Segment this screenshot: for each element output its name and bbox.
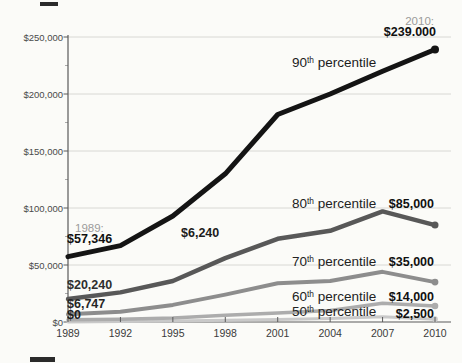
chart-page: $0$50,000$100,000$150,000$200,000$250,00… bbox=[0, 0, 462, 363]
end-dot-90th-percentile bbox=[431, 46, 439, 54]
series-line-80th-percentile bbox=[68, 211, 435, 299]
end-dot-80th-percentile bbox=[432, 222, 439, 229]
end-dot-60th-percentile bbox=[432, 303, 439, 310]
chart-canvas bbox=[0, 0, 462, 363]
series-line-90th-percentile bbox=[68, 50, 435, 257]
end-dot-70th-percentile bbox=[432, 279, 439, 286]
crop-mark-bottom bbox=[30, 357, 55, 362]
